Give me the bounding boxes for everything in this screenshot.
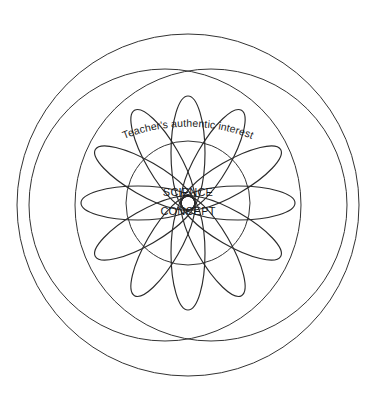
inner-circle-core bbox=[126, 141, 250, 265]
diagram-canvas: Teacher's authentic interest SCIENCE CON… bbox=[0, 0, 376, 393]
arc-title-textpath: Teacher's authentic interest bbox=[121, 117, 256, 141]
rosette-diagram: Teacher's authentic interest SCIENCE CON… bbox=[0, 0, 376, 393]
center-label-line-1: SCIENCE bbox=[163, 186, 213, 198]
arc-title-text: Teacher's authentic interest bbox=[121, 117, 256, 141]
center-label-line-2: CONCEPT bbox=[160, 205, 215, 217]
